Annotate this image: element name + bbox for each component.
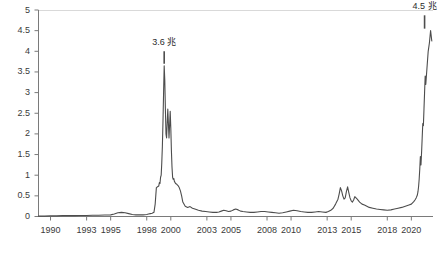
x-axis-tick-label: 2015 xyxy=(331,225,371,235)
y-axis-tick-label: 5 xyxy=(4,5,30,15)
data-series-line xyxy=(39,31,432,216)
x-axis-tick-label: 1995 xyxy=(91,225,131,235)
x-axis-tick-label: 2005 xyxy=(211,225,251,235)
x-axis-tick-label: 2010 xyxy=(271,225,311,235)
y-axis-tick-label: 2 xyxy=(4,128,30,138)
y-axis-tick-label: 3.5 xyxy=(4,66,30,76)
annotation-pointers xyxy=(164,15,424,63)
y-axis-tick-label: 3 xyxy=(4,87,30,97)
chart-annotation-label: 4.5 兆 xyxy=(398,1,442,12)
y-axis-tick-label: 1.5 xyxy=(4,149,30,159)
x-axis-ticks xyxy=(51,217,412,221)
x-axis-tick-label: 2000 xyxy=(151,225,191,235)
y-axis-tick-label: 0 xyxy=(4,211,30,221)
x-axis-tick-label: 2020 xyxy=(391,225,431,235)
x-axis-tick-label: 1990 xyxy=(31,225,71,235)
y-axis-ticks xyxy=(35,10,39,217)
y-axis-tick-label: 4 xyxy=(4,46,30,56)
y-axis-tick-label: 4.5 xyxy=(4,25,30,35)
y-axis-tick-label: 0.5 xyxy=(4,190,30,200)
y-axis-tick-label: 1 xyxy=(4,170,30,180)
y-axis-tick-label: 2.5 xyxy=(4,108,30,118)
chart-annotation-label: 3.6 兆 xyxy=(137,37,191,48)
